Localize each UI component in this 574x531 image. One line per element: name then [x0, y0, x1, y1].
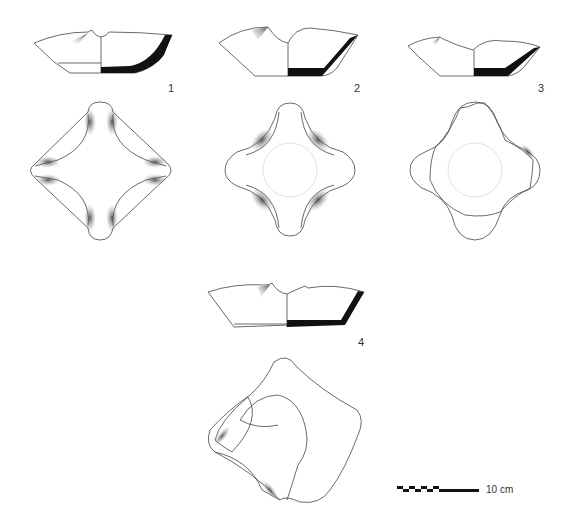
vessel-4-top-view — [208, 358, 361, 503]
vessel-2-profile — [219, 27, 358, 76]
vessel-4-profile — [208, 283, 364, 327]
vessel-1-profile — [34, 30, 172, 73]
scale-bar — [397, 486, 479, 492]
pottery-drawing-plate — [0, 0, 574, 531]
vessel-3-profile — [408, 37, 540, 76]
scale-bar-label: 10 cm — [486, 484, 513, 495]
vessel-3-top-view — [410, 102, 540, 240]
figure-number-4: 4 — [358, 336, 364, 348]
vessel-1-top-view — [31, 102, 172, 240]
vessel-2-top-view — [225, 103, 355, 236]
figure-number-3: 3 — [538, 82, 544, 94]
figure-number-2: 2 — [354, 82, 360, 94]
figure-number-1: 1 — [168, 82, 174, 94]
